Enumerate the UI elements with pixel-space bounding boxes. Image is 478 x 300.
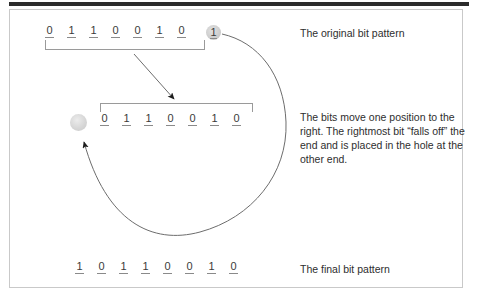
bit-cell: 0 bbox=[188, 112, 197, 126]
bit-spacer bbox=[172, 260, 185, 274]
bit-spacer bbox=[76, 24, 89, 38]
bit-cell: 0 bbox=[133, 24, 142, 38]
bit-cell: 1 bbox=[155, 24, 164, 38]
bit-cell: 0 bbox=[185, 260, 194, 274]
bit-spacer bbox=[98, 24, 111, 38]
bit-cell: 0 bbox=[232, 112, 241, 126]
bit-cell: 1 bbox=[119, 260, 128, 274]
shift-down-arrow bbox=[134, 54, 174, 99]
original-pattern-caption: The original bit pattern bbox=[300, 26, 404, 40]
bit-cell: 1 bbox=[67, 24, 76, 38]
wrap-around-arrow bbox=[84, 34, 286, 235]
shifted-row-bracket bbox=[100, 103, 253, 112]
shift-description-caption: The bits move one position to the right.… bbox=[300, 110, 465, 166]
bit-cell: 1 bbox=[75, 260, 84, 274]
bit-cell: 1 bbox=[207, 260, 216, 274]
bit-spacer bbox=[109, 112, 122, 126]
bit-cell: 0 bbox=[177, 24, 186, 38]
bit-cell: 0 bbox=[166, 112, 175, 126]
bit-cell: 0 bbox=[45, 24, 54, 38]
bit-spacer bbox=[219, 112, 232, 126]
bit-cell: 1 bbox=[122, 112, 131, 126]
bit-spacer bbox=[175, 112, 188, 126]
bit-spacer bbox=[153, 112, 166, 126]
carry-bit-label: 1 bbox=[210, 27, 216, 39]
bit-cell: 1 bbox=[141, 260, 150, 274]
empty-hole-circle bbox=[70, 114, 87, 131]
bit-spacer bbox=[164, 24, 177, 38]
final-pattern-caption: The final bit pattern bbox=[300, 262, 390, 276]
original-row-bracket bbox=[45, 40, 205, 50]
bit-spacer bbox=[54, 24, 67, 38]
final-bit-row: 1 0 1 1 0 0 1 0 bbox=[75, 260, 238, 274]
bit-spacer bbox=[84, 260, 97, 274]
bit-spacer bbox=[106, 260, 119, 274]
bit-cell: 0 bbox=[97, 260, 106, 274]
carry-bit-circle: 1 bbox=[206, 25, 221, 40]
bit-cell: 0 bbox=[100, 112, 109, 126]
figure-root: 0 1 1 0 0 1 0 1 0 1 1 0 0 1 0 bbox=[0, 0, 478, 300]
bit-spacer bbox=[131, 112, 144, 126]
bit-spacer bbox=[128, 260, 141, 274]
original-bit-row: 0 1 1 0 0 1 0 bbox=[45, 24, 186, 38]
bit-spacer bbox=[194, 260, 207, 274]
bit-cell: 0 bbox=[163, 260, 172, 274]
bit-spacer bbox=[120, 24, 133, 38]
shifted-bit-row: 0 1 1 0 0 1 0 bbox=[100, 112, 241, 126]
bit-cell: 0 bbox=[229, 260, 238, 274]
bit-cell: 1 bbox=[89, 24, 98, 38]
bit-spacer bbox=[216, 260, 229, 274]
bit-spacer bbox=[142, 24, 155, 38]
bit-spacer bbox=[150, 260, 163, 274]
bit-cell: 1 bbox=[144, 112, 153, 126]
bit-cell: 0 bbox=[111, 24, 120, 38]
bit-spacer bbox=[197, 112, 210, 126]
bit-cell: 1 bbox=[210, 112, 219, 126]
